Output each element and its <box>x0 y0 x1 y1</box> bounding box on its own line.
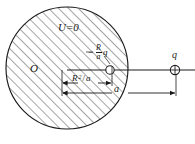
image-charge-numerator: R <box>95 44 102 52</box>
physics-figure: U=0 O − R a q R2/a a q <box>0 0 195 144</box>
origin-label: O <box>30 63 38 74</box>
image-distance-label: R2/a <box>72 74 91 83</box>
potential-label: U=0 <box>58 22 79 33</box>
image-charge-sign: − <box>88 48 93 57</box>
image-charge-denominator: a <box>96 52 102 61</box>
image-charge-marker <box>106 66 114 74</box>
real-charge-label: q <box>172 50 177 60</box>
image-charge-fraction: R a <box>95 44 102 60</box>
image-distance-exponent: 2 <box>79 74 82 80</box>
charge-distance-label: a <box>114 84 119 94</box>
real-charge-marker <box>170 65 179 74</box>
image-distance-divisor: a <box>86 74 91 83</box>
image-distance-base: R <box>72 74 78 83</box>
image-charge-label: − R a q <box>88 44 107 60</box>
image-charge-symbol: q <box>103 48 108 57</box>
image-distance-slash: / <box>83 74 86 83</box>
